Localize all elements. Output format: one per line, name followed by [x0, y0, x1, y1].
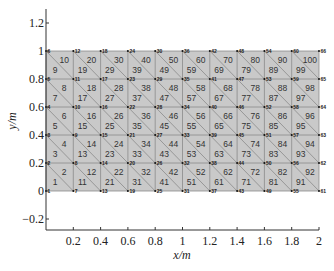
element-label: 89 [269, 65, 279, 75]
element-label: 28 [114, 83, 124, 93]
node-label: 43 [239, 188, 245, 194]
element-label: 99 [296, 65, 306, 75]
element-label: 71 [241, 177, 251, 187]
element-label: 98 [305, 83, 315, 93]
node-label: 25 [157, 188, 163, 194]
node-label: 55 [293, 188, 299, 194]
element-label: 16 [87, 111, 97, 121]
element-label: 39 [132, 65, 142, 75]
x-tick-label: 2 [316, 234, 322, 248]
element-label: 18 [87, 83, 97, 93]
element-label: 63 [214, 149, 224, 159]
element-label: 62 [223, 167, 233, 177]
element-label: 8 [62, 83, 67, 93]
node-label: 10 [75, 104, 81, 110]
node-label: 53 [266, 76, 272, 82]
element-label: 58 [196, 83, 206, 93]
element-label: 46 [169, 111, 179, 121]
node-label: 41 [211, 76, 217, 82]
element-label: 1 [53, 177, 58, 187]
node-label: 27 [157, 132, 163, 138]
node-label: 15 [102, 132, 108, 138]
element-label: 91 [296, 177, 306, 187]
element-label: 7 [53, 93, 58, 103]
node-label: 22 [129, 104, 135, 110]
node-label: 20 [129, 160, 135, 166]
element-label: 57 [187, 93, 197, 103]
element-label: 37 [132, 93, 142, 103]
y-tick-label: 0.8 [29, 72, 44, 86]
element-label: 78 [251, 83, 261, 93]
node-label: 13 [102, 188, 108, 194]
element-label: 48 [169, 83, 179, 93]
element-label: 32 [141, 167, 151, 177]
element-label: 75 [241, 121, 251, 131]
node-label: 50 [266, 160, 272, 166]
element-label: 100 [303, 55, 317, 65]
x-axis-label: x/m [172, 248, 191, 262]
element-label: 87 [269, 93, 279, 103]
element-label: 33 [132, 149, 142, 159]
element-label: 94 [305, 139, 315, 149]
element-label: 21 [105, 177, 115, 187]
element-label: 5 [53, 121, 58, 131]
x-tick-label: 1.6 [257, 234, 272, 248]
y-tick-label: 0.6 [29, 100, 44, 114]
element-label: 6 [62, 111, 67, 121]
node-label: 30 [157, 48, 163, 54]
node-label: 62 [321, 160, 327, 166]
element-label: 36 [141, 111, 151, 121]
node-label: 52 [266, 104, 272, 110]
element-label: 15 [78, 121, 88, 131]
node-label: 36 [184, 48, 190, 54]
element-label: 68 [223, 83, 233, 93]
element-label: 82 [278, 167, 288, 177]
node-label: 23 [129, 76, 135, 82]
x-tick-label: 0.4 [93, 234, 108, 248]
node-label: 42 [211, 48, 217, 54]
element-label: 60 [196, 55, 206, 65]
element-label: 26 [114, 111, 124, 121]
element-label: 53 [187, 149, 197, 159]
triangular-mesh: 1234567891011121314151617181920212223242… [45, 48, 326, 194]
element-label: 22 [114, 167, 124, 177]
node-label: 45 [239, 132, 245, 138]
element-label: 70 [223, 55, 233, 65]
element-label: 4 [62, 139, 67, 149]
element-label: 54 [196, 139, 206, 149]
element-label: 52 [196, 167, 206, 177]
node-label: 37 [211, 188, 217, 194]
element-label: 40 [141, 55, 151, 65]
mesh-figure: 1234567891011121314151617181920212223242… [0, 0, 334, 271]
element-label: 24 [114, 139, 124, 149]
element-label: 47 [160, 93, 170, 103]
x-tick-label: 1.8 [284, 234, 299, 248]
element-label: 69 [214, 65, 224, 75]
element-label: 96 [305, 111, 315, 121]
element-label: 79 [241, 65, 251, 75]
element-label: 19 [78, 65, 88, 75]
element-label: 12 [87, 167, 97, 177]
y-tick-label: 1 [38, 44, 44, 58]
node-label: 24 [129, 48, 135, 54]
node-label: 34 [184, 104, 190, 110]
node-label: 64 [321, 104, 327, 110]
node-label: 40 [211, 104, 217, 110]
y-tick-label: 0.2 [29, 156, 44, 170]
element-label: 56 [196, 111, 206, 121]
node-label: 49 [266, 188, 272, 194]
element-label: 66 [223, 111, 233, 121]
element-label: 34 [141, 139, 151, 149]
x-tick-label: 0.2 [66, 234, 81, 248]
element-label: 50 [169, 55, 179, 65]
node-label: 38 [211, 160, 217, 166]
node-label: 63 [321, 132, 327, 138]
node-label: 60 [293, 48, 299, 54]
node-label: 19 [129, 188, 135, 194]
node-label: 32 [184, 160, 190, 166]
node-label: 18 [102, 48, 108, 54]
element-label: 72 [251, 167, 261, 177]
element-label: 74 [251, 139, 261, 149]
element-label: 64 [223, 139, 233, 149]
element-label: 3 [53, 149, 58, 159]
